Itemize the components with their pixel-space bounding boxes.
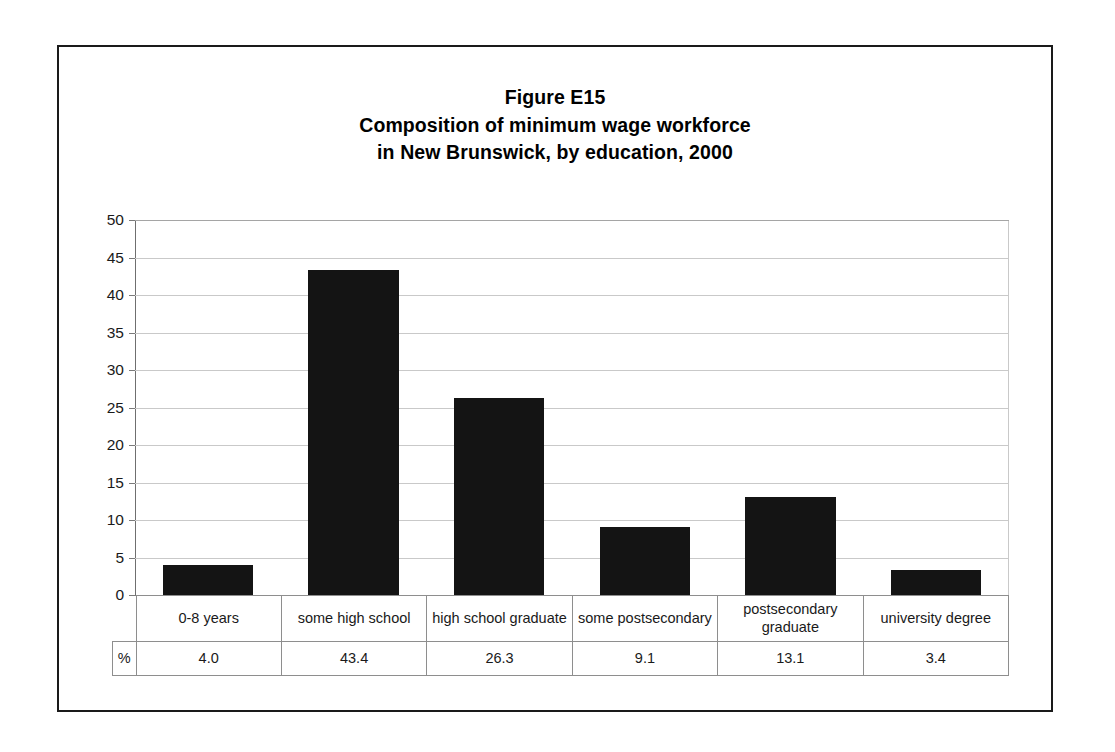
title-line-2: Composition of minimum wage workforce xyxy=(59,112,1051,140)
y-axis-label-10: 10 xyxy=(107,511,124,529)
page-title: Figure E15 Composition of minimum wage w… xyxy=(59,84,1051,167)
title-line-1: Figure E15 xyxy=(59,84,1051,112)
y-axis-label-45: 45 xyxy=(107,249,124,267)
y-axis-label-40: 40 xyxy=(107,286,124,304)
bar-cell xyxy=(718,220,864,595)
y-axis-label-25: 25 xyxy=(107,399,124,417)
bar-cell xyxy=(135,220,281,595)
bar-5[interactable] xyxy=(891,570,981,596)
category-cell: some postsecondary xyxy=(572,596,717,642)
bar-2[interactable] xyxy=(454,398,544,595)
y-axis-label-30: 30 xyxy=(107,361,124,379)
value-cell: 43.4 xyxy=(281,642,426,676)
category-cell: university degree xyxy=(863,596,1008,642)
category-cell: high school graduate xyxy=(427,596,572,642)
bar-cell xyxy=(863,220,1009,595)
bars-layer xyxy=(135,220,1009,595)
bar-4[interactable] xyxy=(745,497,835,595)
title-line-3: in New Brunswick, by education, 2000 xyxy=(59,139,1051,167)
bar-cell xyxy=(572,220,718,595)
table-row-categories: 0-8 yearssome high schoolhigh school gra… xyxy=(113,596,1009,642)
bar-1[interactable] xyxy=(308,270,398,596)
y-axis-label-35: 35 xyxy=(107,324,124,342)
value-cell: 4.0 xyxy=(136,642,281,676)
y-axis-label-15: 15 xyxy=(107,474,124,492)
bar-3[interactable] xyxy=(600,527,690,595)
figure-frame: Figure E15 Composition of minimum wage w… xyxy=(57,45,1053,712)
chart-plot-area: 50454035302520151050 xyxy=(135,220,1009,595)
y-axis-label-5: 5 xyxy=(115,549,124,567)
bar-0[interactable] xyxy=(163,565,253,595)
value-cell: 9.1 xyxy=(572,642,717,676)
bar-cell xyxy=(281,220,427,595)
category-cell: postsecondary graduate xyxy=(718,596,863,642)
value-cell: 3.4 xyxy=(863,642,1008,676)
category-corner-cell xyxy=(113,596,137,642)
bar-cell xyxy=(426,220,572,595)
unit-label-cell: % xyxy=(113,642,137,676)
data-table: 0-8 yearssome high schoolhigh school gra… xyxy=(112,595,1009,676)
value-cell: 13.1 xyxy=(718,642,863,676)
y-axis-label-20: 20 xyxy=(107,436,124,454)
value-cell: 26.3 xyxy=(427,642,572,676)
table-row-values: % 4.043.426.39.113.13.4 xyxy=(113,642,1009,676)
category-cell: some high school xyxy=(281,596,426,642)
y-axis-label-50: 50 xyxy=(107,211,124,229)
category-cell: 0-8 years xyxy=(136,596,281,642)
